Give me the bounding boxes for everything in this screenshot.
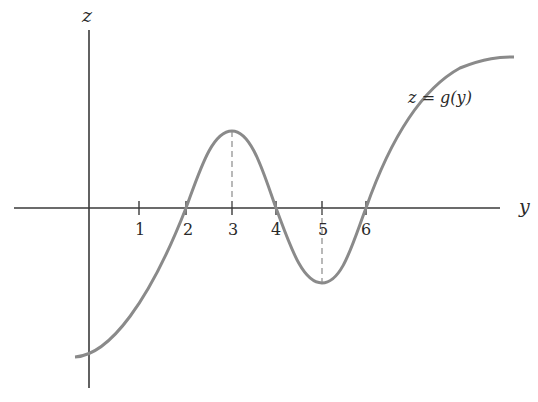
- tick-label-4: 4: [271, 220, 281, 239]
- curve-label: z = g(y): [408, 88, 472, 107]
- tick-label-1: 1: [135, 220, 145, 239]
- tick-label-5: 5: [318, 220, 328, 239]
- z-axis-label: z: [82, 4, 92, 26]
- tick-label-6: 6: [361, 220, 371, 239]
- graph-figure: [0, 0, 538, 402]
- tick-label-3: 3: [228, 220, 238, 239]
- y-axis-label: y: [519, 195, 530, 217]
- tick-label-2: 2: [183, 220, 193, 239]
